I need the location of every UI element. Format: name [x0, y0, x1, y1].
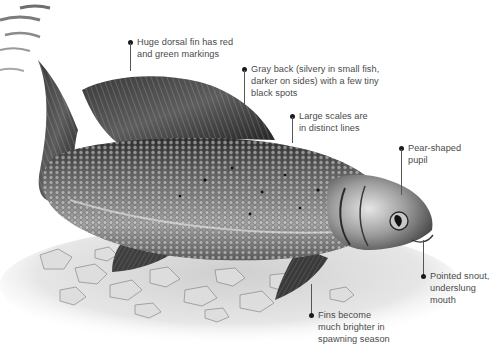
annotation-line: spawning season [318, 333, 390, 345]
annotation-snout: Pointed snout, underslung mouth [430, 270, 489, 306]
fish-head [327, 175, 433, 250]
fish-illustration [0, 0, 499, 361]
leader-dot-fins [309, 313, 314, 318]
annotation-scales: Large scales are in distinct lines [299, 110, 368, 134]
leader-line-snout [423, 240, 424, 276]
leader-line-scales [292, 117, 293, 143]
annotation-line: black spots [251, 87, 379, 99]
annotation-line: Pear-shaped [408, 142, 461, 154]
annotation-line: Gray back (silvery in small fish, [251, 63, 379, 75]
annotation-line: Large scales are [299, 110, 368, 122]
annotation-line: Pointed snout, [430, 270, 489, 282]
annotation-line: darker on sides) with a few tiny [251, 75, 379, 87]
annotation-line: Fins become [318, 309, 390, 321]
annotation-fins: Fins become much brighter in spawning se… [318, 309, 390, 345]
annotation-line: underslung [430, 282, 489, 294]
water-streaks [0, 6, 50, 71]
annotation-dorsal-fin: Huge dorsal fin has red and green markin… [137, 36, 233, 60]
leader-dot-snout [421, 274, 426, 279]
leader-line-dorsal-fin [130, 43, 131, 71]
leader-line-pupil [401, 149, 402, 195]
annotation-line: in distinct lines [299, 122, 368, 134]
grayling-illustration: Huge dorsal fin has red and green markin… [0, 0, 499, 361]
annotation-line: mouth [430, 294, 489, 306]
annotation-line: pupil [408, 154, 461, 166]
annotation-gray-back: Gray back (silvery in small fish, darker… [251, 63, 379, 99]
annotation-line: and green markings [137, 48, 233, 60]
leader-line-gray-back [244, 70, 245, 104]
annotation-line: Huge dorsal fin has red [137, 36, 233, 48]
annotation-line: much brighter in [318, 321, 390, 333]
annotation-pupil: Pear-shaped pupil [408, 142, 461, 166]
leader-line-fins [311, 284, 312, 315]
